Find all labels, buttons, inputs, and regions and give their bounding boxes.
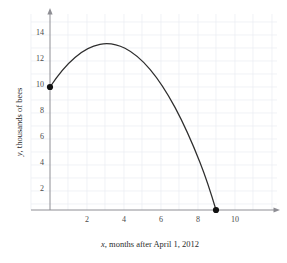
y-tick-label: 2 (40, 184, 44, 193)
bee-population-chart: 2 4 6 8 10 12 14 2 4 6 8 10 x, months af… (0, 0, 287, 263)
data-point-start (47, 84, 53, 90)
x-axis-caption: x, months after April 1, 2012 (100, 239, 199, 249)
y-tick-label: 10 (36, 80, 44, 89)
y-axis-caption-text: , thousands of bees (14, 88, 24, 153)
data-point-x-intercept (213, 207, 219, 213)
x-tick-label: 8 (196, 215, 200, 224)
y-tick-label: 12 (36, 54, 44, 63)
x-tick-label: 4 (122, 215, 126, 224)
y-tick-label: 14 (36, 28, 44, 37)
y-tick-label: 4 (40, 158, 44, 167)
x-tick-label: 2 (85, 215, 89, 224)
x-tick-label: 6 (159, 215, 163, 224)
y-axis-caption: y, thousands of bees (14, 88, 24, 157)
y-tick-label: 8 (40, 106, 44, 115)
y-tick-label: 6 (40, 132, 44, 141)
chart-page: 2 4 6 8 10 12 14 2 4 6 8 10 x, months af… (0, 0, 287, 263)
x-axis-caption-text: , months after April 1, 2012 (105, 239, 199, 249)
x-tick-label: 10 (231, 215, 239, 224)
